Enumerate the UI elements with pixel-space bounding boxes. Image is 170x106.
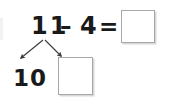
answer-box-decomposition-part[interactable]	[58, 57, 93, 95]
decomposition-left-part-label: 10	[13, 67, 47, 90]
bond-arrow-right	[45, 40, 61, 56]
bond-arrow-left	[21, 40, 43, 58]
math-problem-worksheet: 11 – 4 = 10	[0, 0, 170, 106]
